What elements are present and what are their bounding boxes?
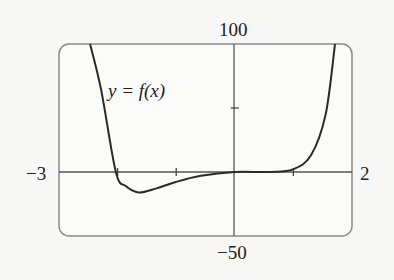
- plot-frame: [59, 44, 352, 236]
- function-plot: [0, 0, 394, 280]
- y-max-label: 100: [219, 20, 248, 39]
- x-min-label: −3: [26, 164, 46, 183]
- function-annotation: y = f(x): [108, 81, 165, 100]
- x-max-label: 2: [360, 164, 370, 183]
- y-min-label: −50: [217, 243, 247, 262]
